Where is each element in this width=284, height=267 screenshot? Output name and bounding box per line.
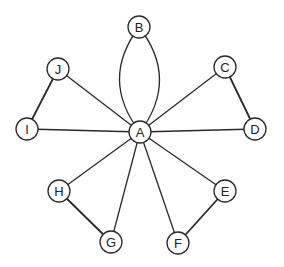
nodes-layer: ABCDEFGHIJ [16,16,266,254]
node-label: B [135,20,144,35]
node-a: A [129,121,151,143]
edge-a-b [119,27,140,132]
node-label: E [221,184,230,199]
node-j: J [47,58,69,80]
node-i: I [16,118,38,140]
node-label: D [250,122,259,137]
node-label: H [54,184,63,199]
node-f: F [167,232,189,254]
edge-a-i [27,129,140,132]
node-label: I [25,122,29,137]
node-label: J [55,62,62,77]
node-h: H [48,180,70,202]
graph-diagram: ABCDEFGHIJ [0,0,284,267]
edge-a-g [111,132,140,242]
edge-a-f [140,132,178,243]
node-c: C [214,56,236,78]
node-b: B [128,16,150,38]
node-d: D [244,118,266,140]
node-label: A [136,125,145,140]
node-label: F [174,236,182,251]
edge-a-h [59,132,140,191]
node-label: C [220,60,229,75]
edge-a-c [140,67,225,132]
node-label: G [106,235,116,250]
node-g: G [100,231,122,253]
edge-a-d [140,129,255,132]
edge-a-j [58,69,140,132]
edge-a-b [139,27,160,132]
node-e: E [214,180,236,202]
edge-a-e [140,132,225,191]
